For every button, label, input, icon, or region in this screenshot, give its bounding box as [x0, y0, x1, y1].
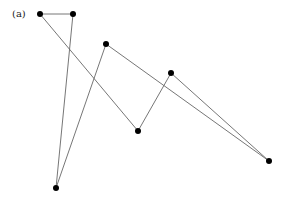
edge-n2-n3 [56, 14, 73, 188]
edges-group [40, 14, 269, 188]
edge-n3-n4 [56, 44, 106, 188]
node-n6 [168, 70, 174, 76]
diagram-canvas: (a) [0, 0, 291, 205]
nodes-group [37, 11, 272, 191]
node-n7 [135, 128, 141, 134]
node-n5 [266, 158, 272, 164]
edge-n5-n6 [171, 73, 269, 161]
node-n1 [37, 11, 43, 17]
node-n2 [70, 11, 76, 17]
node-n4 [103, 41, 109, 47]
node-n3 [53, 185, 59, 191]
edge-n4-n5 [106, 44, 269, 161]
panel-label: (a) [12, 8, 26, 19]
edge-n6-n7 [138, 73, 171, 131]
edge-n7-n1 [40, 14, 138, 131]
